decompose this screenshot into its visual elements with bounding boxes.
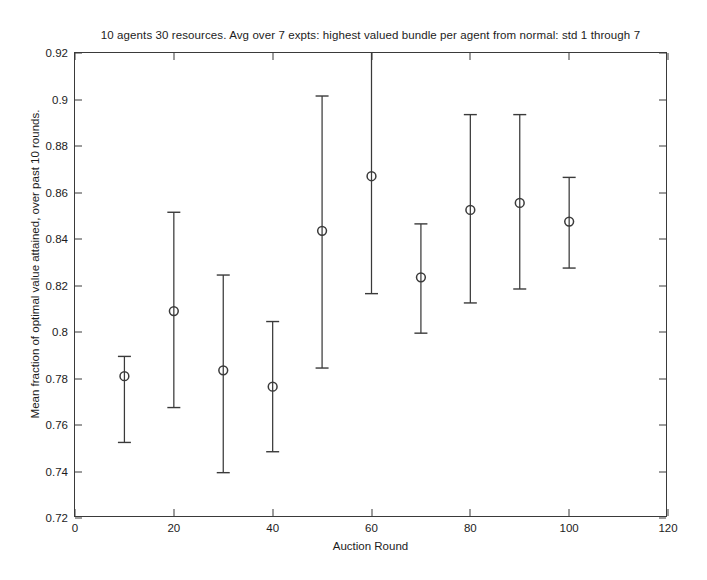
- y-tick-label: 0.88: [46, 140, 75, 152]
- plot-area: 0.720.740.760.780.80.820.840.860.880.90.…: [74, 52, 667, 517]
- errorbar-point: [563, 177, 576, 268]
- x-tick-label: 40: [266, 516, 279, 534]
- x-tick-label: 60: [365, 516, 378, 534]
- x-axis-label: Auction Round: [74, 540, 667, 552]
- chart-title: 10 agents 30 resources. Avg over 7 expts…: [74, 29, 667, 41]
- y-tick-label: 0.74: [46, 466, 75, 478]
- errorbar-point: [118, 356, 131, 442]
- errorbar-point: [266, 322, 279, 452]
- y-axis-label-container: Mean fraction of optimal value attained,…: [0, 0, 40, 580]
- y-tick-label: 0.82: [46, 280, 75, 292]
- errorbar-series: [75, 53, 668, 518]
- errorbar-point: [217, 275, 230, 473]
- errorbar-point: [464, 115, 477, 303]
- x-tick-label: 120: [658, 516, 677, 534]
- y-axis-label: Mean fraction of optimal value attained,…: [29, 54, 41, 474]
- x-tick-label: 0: [72, 516, 78, 534]
- x-tick-label: 20: [167, 516, 180, 534]
- errorbar-point: [167, 212, 180, 407]
- errorbar-chart-figure: 10 agents 30 resources. Avg over 7 expts…: [0, 0, 707, 580]
- x-tick-label: 80: [464, 516, 477, 534]
- y-tick-label: 0.76: [46, 419, 75, 431]
- errorbar-point: [414, 224, 427, 333]
- x-tick-label: 100: [560, 516, 579, 534]
- y-tick-label: 0.92: [46, 47, 75, 59]
- y-tick-label: 0.78: [46, 373, 75, 385]
- y-tick-label: 0.84: [46, 233, 75, 245]
- y-tick-label: 0.8: [52, 326, 75, 338]
- errorbar-point: [316, 96, 329, 368]
- y-tick-label: 0.86: [46, 187, 75, 199]
- y-tick-label: 0.9: [52, 94, 75, 106]
- y-tick-label: 0.72: [46, 512, 75, 524]
- errorbar-point: [365, 53, 378, 294]
- errorbar-point: [513, 115, 526, 289]
